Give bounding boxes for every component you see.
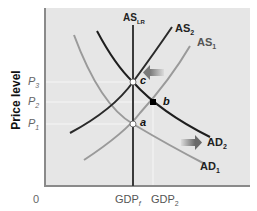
ad1-label: AD1 [200, 160, 220, 174]
p2-label: P2 [28, 95, 39, 109]
point-a-label: a [140, 116, 146, 128]
point-c-label: c [140, 74, 146, 86]
point-c-marker [130, 79, 136, 85]
y-axis-label: Price level [9, 55, 25, 145]
as2-label: AS2 [175, 22, 194, 36]
point-a-marker [130, 121, 136, 127]
aslr-label: ASLR [123, 12, 145, 25]
point-b-marker [150, 99, 156, 105]
ad2-label: AD2 [207, 136, 227, 150]
gdpf-label: GDPf [115, 193, 141, 207]
origin-label: 0 [33, 193, 39, 205]
as1-label: AS1 [197, 36, 216, 50]
gdp2-label: GDP2 [151, 193, 179, 207]
p1-label: P1 [28, 117, 39, 131]
p3-label: P3 [28, 75, 39, 89]
point-b-label: b [163, 95, 170, 107]
